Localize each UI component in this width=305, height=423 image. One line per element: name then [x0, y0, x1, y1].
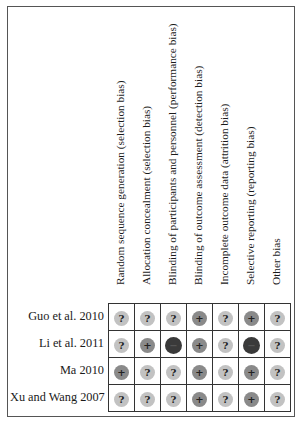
unclear-risk-icon: ?: [166, 311, 181, 326]
unclear-risk-icon: ?: [270, 365, 285, 380]
grid-cell: ?: [161, 385, 187, 412]
column-header-label: Other bias: [271, 238, 282, 285]
table-row: ???+?+?: [109, 385, 291, 412]
grid-cell: ?: [135, 385, 161, 412]
unclear-risk-icon: ?: [166, 392, 181, 407]
column-header: Random sequence generation (selection bi…: [108, 10, 134, 296]
study-label: Guo et al. 2010: [10, 303, 104, 330]
grid-cell: ?: [265, 304, 291, 331]
low-risk-icon: +: [192, 338, 207, 353]
column-header: Allocation concealment (selection bias): [134, 10, 160, 296]
unclear-risk-icon: ?: [270, 338, 285, 353]
high-risk-icon: −: [243, 337, 260, 354]
low-risk-icon: +: [140, 338, 155, 353]
column-header: Other bias: [264, 10, 290, 296]
column-header-label: Incomplete outcome data (attrition bias): [219, 103, 230, 284]
grid-cell: ?: [135, 358, 161, 385]
grid-cell: ?: [109, 304, 135, 331]
risk-of-bias-grid: ???+?+??+−+?−?+??+?+????+?+?: [108, 303, 291, 412]
grid-cell: ?: [135, 304, 161, 331]
grid-cell: ?: [213, 304, 239, 331]
grid-cell: +: [109, 358, 135, 385]
grid-cell: +: [239, 304, 265, 331]
grid-cell: +: [187, 304, 213, 331]
column-header: Incomplete outcome data (attrition bias): [212, 10, 238, 296]
low-risk-icon: +: [114, 365, 129, 380]
unclear-risk-icon: ?: [114, 392, 129, 407]
unclear-risk-icon: ?: [270, 392, 285, 407]
low-risk-icon: +: [244, 365, 259, 380]
table-row: ???+?+?: [109, 304, 291, 331]
table-row: +??+?+?: [109, 358, 291, 385]
study-label: Li et al. 2011: [10, 330, 104, 357]
high-risk-icon: −: [165, 337, 182, 354]
grid-cell: +: [187, 358, 213, 385]
grid-cell: ?: [213, 358, 239, 385]
column-headers: Random sequence generation (selection bi…: [108, 10, 290, 296]
column-header: Blinding of outcome assessment (detectio…: [186, 10, 212, 296]
grid-cell: ?: [265, 385, 291, 412]
unclear-risk-icon: ?: [114, 338, 129, 353]
low-risk-icon: +: [192, 365, 207, 380]
grid-cell: ?: [109, 385, 135, 412]
low-risk-icon: +: [192, 311, 207, 326]
grid-cell: +: [135, 331, 161, 358]
unclear-risk-icon: ?: [140, 311, 155, 326]
column-header-label: Selective reporting (reporting bias): [245, 126, 256, 284]
grid-cell: ?: [161, 358, 187, 385]
grid-cell: ?: [213, 331, 239, 358]
grid-cell: −: [239, 331, 265, 358]
column-header-label: Random sequence generation (selection bi…: [115, 80, 126, 285]
unclear-risk-icon: ?: [218, 338, 233, 353]
grid-cell: +: [187, 385, 213, 412]
low-risk-icon: +: [192, 392, 207, 407]
unclear-risk-icon: ?: [218, 392, 233, 407]
grid-cell: +: [187, 331, 213, 358]
column-header-label: Blinding of participants and personnel (…: [167, 23, 178, 285]
column-header-label: Blinding of outcome assessment (detectio…: [193, 65, 204, 284]
unclear-risk-icon: ?: [218, 311, 233, 326]
unclear-risk-icon: ?: [114, 311, 129, 326]
grid-cell: +: [239, 385, 265, 412]
unclear-risk-icon: ?: [140, 365, 155, 380]
study-label: Xu and Wang 2007: [10, 384, 104, 411]
column-header-label: Allocation concealment (selection bias): [141, 106, 152, 285]
row-labels: Guo et al. 2010Li et al. 2011Ma 2010Xu a…: [10, 303, 104, 411]
column-header: Selective reporting (reporting bias): [238, 10, 264, 296]
unclear-risk-icon: ?: [166, 365, 181, 380]
low-risk-icon: +: [244, 311, 259, 326]
grid-cell: ?: [265, 358, 291, 385]
unclear-risk-icon: ?: [140, 392, 155, 407]
unclear-risk-icon: ?: [270, 311, 285, 326]
study-label: Ma 2010: [10, 357, 104, 384]
table-row: ?+−+?−?: [109, 331, 291, 358]
grid-cell: ?: [213, 385, 239, 412]
grid-cell: ?: [109, 331, 135, 358]
grid-cell: +: [239, 358, 265, 385]
grid-cell: ?: [265, 331, 291, 358]
column-header: Blinding of participants and personnel (…: [160, 10, 186, 296]
unclear-risk-icon: ?: [218, 365, 233, 380]
grid-cell: −: [161, 331, 187, 358]
low-risk-icon: +: [244, 392, 259, 407]
grid-cell: ?: [161, 304, 187, 331]
